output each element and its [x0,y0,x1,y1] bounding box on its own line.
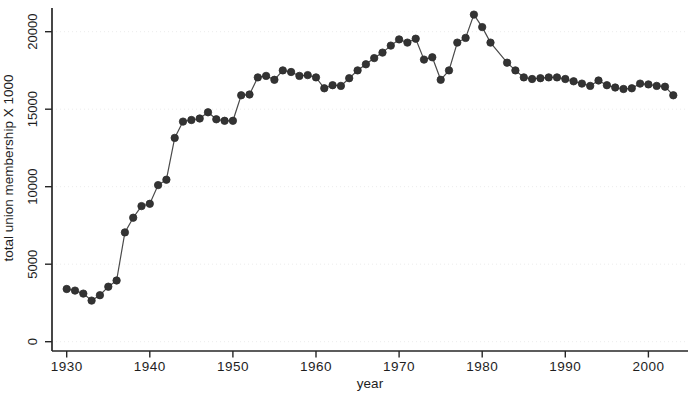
data-point [204,109,211,116]
data-point [620,85,627,92]
data-point [262,72,269,79]
series-line [67,15,674,301]
data-point [562,75,569,82]
data-point [196,115,203,122]
data-point [553,74,560,81]
data-point [487,39,494,46]
data-point [146,200,153,207]
data-point [528,75,535,82]
data-point [130,214,137,221]
data-point [545,74,552,81]
y-tick-label: 15000 [25,91,40,127]
data-point [354,67,361,74]
data-point [80,290,87,297]
axes [52,8,688,351]
data-point [628,85,635,92]
data-point [188,116,195,123]
data-point [221,117,228,124]
data-point [63,285,70,292]
union-membership-chart: 0500010000150002000019301940195019601970… [0,0,692,398]
data-point [138,202,145,209]
data-point [462,34,469,41]
data-point [661,83,668,90]
y-tick-label: 0 [25,338,40,345]
data-point [154,181,161,188]
x-tick-label: 1970 [383,359,415,374]
data-point [520,74,527,81]
y-axis-title: total union membership X 1000 [1,75,16,262]
data-point [279,67,286,74]
data-point [595,77,602,84]
data-point [454,39,461,46]
x-axis-title: year [357,376,384,391]
data-point [537,75,544,82]
data-point [304,71,311,78]
data-point [470,11,477,18]
x-tick-label: 1980 [466,359,498,374]
data-point [96,292,103,299]
data-point [379,49,386,56]
data-point [570,78,577,85]
y-tick-label: 20000 [25,14,40,50]
data-point [113,277,120,284]
y-tick-label: 10000 [25,169,40,205]
data-point [578,80,585,87]
data-point [362,61,369,68]
data-point [387,42,394,49]
data-point [254,74,261,81]
data-point [612,84,619,91]
data-point [171,134,178,141]
data-point [321,85,328,92]
x-tick-label: 1950 [217,359,249,374]
gridlines [56,32,688,342]
data-point [296,72,303,79]
data-point [636,80,643,87]
data-point [163,176,170,183]
data-point [371,54,378,61]
data-point [420,56,427,63]
data-point [105,283,112,290]
data-point [603,82,610,89]
data-point [437,76,444,83]
data-point [445,67,452,74]
x-tick-label: 2000 [632,359,664,374]
data-point [229,117,236,124]
data-point [395,36,402,43]
data-point [512,67,519,74]
y-tick-label: 5000 [25,250,40,279]
x-tick-label: 1940 [134,359,166,374]
data-point [337,82,344,89]
data-point [412,35,419,42]
data-point [287,68,294,75]
data-point [312,74,319,81]
data-point [179,118,186,125]
data-point [71,287,78,294]
data-point [246,91,253,98]
data-point [653,82,660,89]
tick-labels: 0500010000150002000019301940195019601970… [25,14,664,374]
data-point [121,229,128,236]
data-point [479,23,486,30]
x-tick-label: 1960 [300,359,332,374]
x-tick-label: 1990 [549,359,581,374]
data-point [271,76,278,83]
data-point [238,92,245,99]
data-point [88,297,95,304]
data-point [329,82,336,89]
data-point [213,116,220,123]
data-point [429,54,436,61]
x-tick-label: 1930 [51,359,83,374]
data-point [503,59,510,66]
data-point [346,75,353,82]
data-point [404,39,411,46]
data-point [670,92,677,99]
chart-canvas: 0500010000150002000019301940195019601970… [0,0,692,398]
data-point [587,82,594,89]
data-point [645,81,652,88]
data-series [63,11,677,304]
